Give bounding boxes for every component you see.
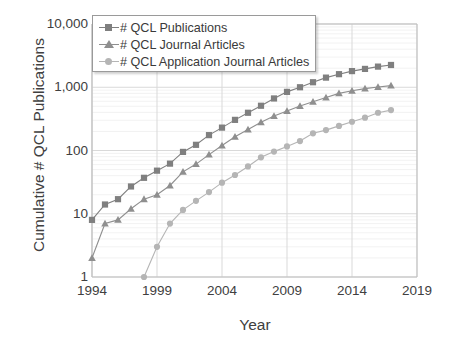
x-tick-label: 2004	[192, 283, 252, 298]
x-tick-label: 2014	[322, 283, 382, 298]
legend-item-qcl-publications[interactable]: # QCL Publications	[99, 19, 309, 36]
chart-container: Cumulative # QCL Publications Year 11010…	[0, 0, 450, 345]
legend-label-3: # QCL Application Journal Articles	[120, 55, 309, 69]
data-series	[88, 62, 395, 280]
triangle-marker-icon	[99, 39, 119, 51]
circle-marker-icon	[99, 56, 119, 68]
y-tick-label: 10	[36, 207, 88, 221]
y-tick-label: 1	[36, 270, 88, 284]
x-tick-label: 2019	[387, 283, 447, 298]
legend-label-2: # QCL Journal Articles	[120, 38, 245, 52]
y-tick-label: 100	[36, 144, 88, 158]
y-tick-label: 10,000	[36, 17, 88, 31]
legend-item-qcl-journal-articles[interactable]: # QCL Journal Articles	[99, 36, 309, 53]
legend-label-1: # QCL Publications	[120, 21, 227, 35]
y-tick-label: 1,000	[36, 80, 88, 94]
x-tick-label: 1999	[127, 283, 187, 298]
x-tick-label: 2009	[257, 283, 317, 298]
x-tick-label: 1994	[62, 283, 122, 298]
legend-item-qcl-application-journal-articles[interactable]: # QCL Application Journal Articles	[99, 53, 309, 70]
square-marker-icon	[99, 22, 119, 34]
legend: # QCL Publications # QCL Journal Article…	[92, 15, 316, 72]
